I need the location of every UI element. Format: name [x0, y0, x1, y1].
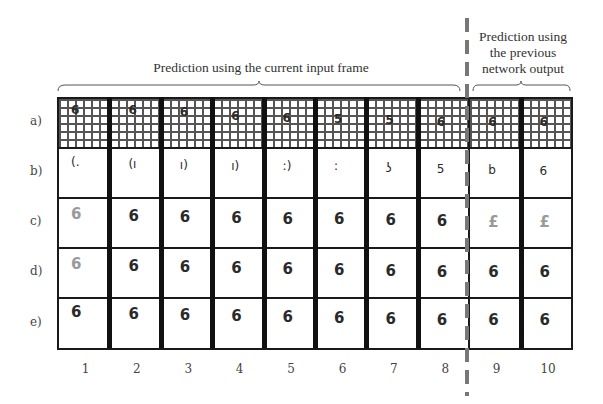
digit-image: ı) — [180, 158, 188, 172]
frame-cell: 6 — [468, 297, 521, 350]
column-label: 6 — [317, 362, 368, 376]
digit-image: 6 — [71, 205, 81, 223]
frame-cell: 6 — [57, 247, 110, 299]
frame-cell: 6 — [314, 197, 367, 249]
frame-cell: 6 — [417, 247, 470, 299]
frame-cell: 6 — [57, 297, 110, 350]
frame-cell: 6 — [520, 147, 573, 199]
column-label: 4 — [214, 362, 265, 376]
digit-image: 6 — [283, 111, 291, 125]
frame-cell: 6 — [314, 247, 367, 299]
digit-image: £ — [540, 213, 550, 231]
digit-image: ʖ — [385, 161, 391, 175]
digit-image: 6 — [334, 210, 344, 228]
brace-left — [57, 80, 462, 92]
frame-cell: b — [468, 147, 521, 199]
frame-cell: (. — [57, 147, 110, 199]
digit-image: 6 — [437, 212, 447, 230]
frame-cell: ı) — [211, 147, 264, 199]
digit-image: 6 — [180, 306, 190, 324]
digit-image: b — [488, 163, 496, 177]
digit-image: 6 — [283, 210, 293, 228]
digit-image: 6 — [385, 310, 395, 328]
digit-image: 6 — [540, 115, 548, 129]
row-label: a) — [30, 114, 52, 128]
frame-cell: £ — [520, 197, 573, 249]
column-separator — [364, 97, 369, 348]
frame-cell: 5 — [365, 97, 418, 149]
digit-image: 5 — [334, 112, 342, 126]
digit-image: ı) — [231, 159, 239, 173]
digit-image: : — [334, 159, 338, 173]
frame-cell: 6 — [211, 297, 264, 350]
frame-cell: 6 — [211, 197, 264, 249]
frame-cell: 6 — [263, 297, 316, 350]
column-separator — [159, 97, 164, 348]
frame-cell: 6 — [417, 297, 470, 350]
frame-cell: 6 — [417, 97, 470, 149]
header-previous-output: Prediction using the previous network ou… — [472, 29, 574, 77]
frame-cell: 6 — [108, 197, 161, 249]
frame-cell: 6 — [520, 297, 573, 350]
column-label: 1 — [60, 362, 111, 376]
column-label: 10 — [523, 362, 574, 376]
digit-image: :) — [283, 159, 292, 173]
header-previous-output-line-1: Prediction using — [472, 29, 574, 45]
header-previous-output-line-3: network output — [472, 61, 574, 77]
frame-cell: 6 — [468, 247, 521, 299]
divider-dashed-line — [465, 18, 469, 396]
frame-cell: 6 — [263, 247, 316, 299]
column-separator — [107, 97, 112, 348]
row-label: b) — [30, 164, 52, 178]
frame-cell: (ı — [108, 147, 161, 199]
digit-image: 6 — [283, 260, 293, 278]
digit-image: 6 — [540, 311, 550, 329]
frame-cell: 6 — [263, 197, 316, 249]
digit-image: 6 — [71, 255, 81, 273]
row-label: c) — [30, 214, 52, 228]
frame-cell: 6 — [520, 97, 573, 149]
frame-cell: 6 — [417, 197, 470, 249]
digit-image: 6 — [437, 115, 445, 129]
frame-cell: 6 — [108, 247, 161, 299]
frame-cell: 6 — [160, 247, 213, 299]
column-separator — [313, 97, 318, 348]
frame-cell: 6 — [468, 97, 521, 149]
digit-image: 6 — [437, 311, 447, 329]
row-label: e) — [30, 315, 52, 329]
digit-image: 6 — [283, 308, 293, 326]
frame-cell: 6 — [365, 247, 418, 299]
digit-image: 6 — [128, 207, 138, 225]
frame-cell: 6 — [211, 247, 264, 299]
digit-image: £ — [488, 213, 498, 231]
frame-cell: 6 — [160, 97, 213, 149]
frame-cell: 6 — [365, 297, 418, 350]
frame-cell: 6 — [365, 197, 418, 249]
digit-image: 6 — [180, 258, 190, 276]
frame-cell: 6 — [160, 197, 213, 249]
digit-image: 6 — [180, 105, 188, 119]
frame-cell: 6 — [520, 247, 573, 299]
digit-image: 6 — [231, 307, 241, 325]
frame-cell: 6 — [160, 297, 213, 350]
digit-image: 6 — [128, 103, 136, 117]
column-label: 5 — [266, 362, 317, 376]
digit-image: 6 — [180, 208, 190, 226]
frame-cell: 6 — [108, 97, 161, 149]
brace-right — [472, 80, 572, 92]
digit-image: 6 — [231, 109, 239, 123]
column-separator — [210, 97, 215, 348]
header-previous-output-line-2: the previous — [472, 45, 574, 61]
column-label: 2 — [111, 362, 162, 376]
column-label: 9 — [471, 362, 522, 376]
frame-cell: : — [314, 147, 367, 199]
frame-cell: 6 — [263, 97, 316, 149]
frame-cell: 5 — [314, 97, 367, 149]
frame-cell: :) — [263, 147, 316, 199]
digit-image: 6 — [334, 261, 344, 279]
row-label: d) — [30, 264, 52, 278]
header-current-input: Prediction using the current input frame — [60, 60, 462, 76]
frame-cell: ı) — [160, 147, 213, 199]
column-label: 3 — [163, 362, 214, 376]
column-separator — [416, 97, 421, 348]
